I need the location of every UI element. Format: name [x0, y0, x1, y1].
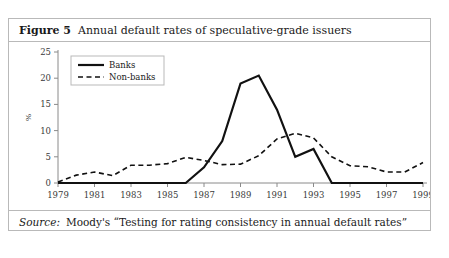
x-axis-tick-label: 1983 [120, 190, 142, 200]
y-axis-tick-label: 5 [46, 152, 51, 162]
x-axis-tick-label: 1991 [266, 190, 288, 200]
x-axis-tick-label: 1993 [303, 190, 325, 200]
x-axis-tick-label: 1995 [339, 190, 361, 200]
x-axis-tick-label: 1979 [47, 190, 69, 200]
source-label: Source: [19, 216, 60, 228]
y-axis-tick-label: 15 [40, 99, 51, 109]
y-axis-tick-label: 10 [40, 126, 51, 136]
source-text: Moody's “Testing for rating consistency … [66, 216, 407, 228]
y-axis-tick-label: 0 [46, 178, 51, 188]
legend-label-banks: Banks [109, 60, 135, 70]
figure-label: Figure 5 [19, 24, 71, 37]
x-axis-tick-label: 1981 [84, 190, 106, 200]
series-line-non-banks [58, 133, 423, 182]
page-title: Annual default rates of speculative-grad… [78, 24, 352, 37]
x-axis-tick-label: 1989 [230, 190, 252, 200]
y-axis-title: % [24, 113, 33, 121]
legend-label-non-banks: Non-banks [109, 72, 155, 82]
x-axis-tick-label: 1999 [412, 190, 430, 200]
figure-source-bar: Source: Moody's “Testing for rating cons… [9, 211, 430, 232]
figure-title-bar: Figure 5 Annual default rates of specula… [9, 19, 430, 41]
y-axis-tick-label: 25 [40, 47, 51, 57]
figure-container: Figure 5 Annual default rates of specula… [8, 18, 431, 231]
chart-plot-area: 0510152025197919811983198519871989199119… [9, 42, 430, 210]
series-layer [58, 76, 423, 183]
series-line-banks [58, 76, 423, 183]
legend-layer: BanksNon-banks [71, 56, 164, 85]
x-axis-tick-label: 1997 [376, 190, 398, 200]
x-axis-tick-label: 1985 [157, 190, 179, 200]
y-axis-tick-label: 20 [40, 73, 51, 83]
default-rates-line-chart: 0510152025197919811983198519871989199119… [9, 42, 430, 210]
x-axis-tick-label: 1987 [193, 190, 215, 200]
